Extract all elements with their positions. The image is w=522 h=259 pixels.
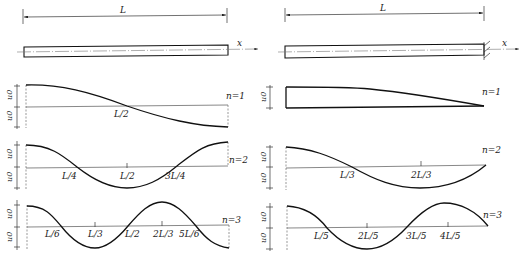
mode-label: n=1 (226, 91, 245, 101)
left-x-axis-label: x (237, 38, 242, 48)
right-mode-1: u0 n=1 (259, 85, 501, 110)
tick-label: L/4 (61, 171, 77, 181)
mode-label: n=3 (483, 210, 502, 220)
tick-label: L/3 (339, 170, 355, 180)
amplitude-label: u0 (5, 149, 14, 159)
mode-label: n=2 (229, 155, 248, 165)
amplitude-label: u0 (5, 172, 14, 182)
tick-label: L/2 (113, 109, 129, 119)
left-mode-2: u0 u0 L/4 L/2 3L/4 n=2 (5, 141, 248, 190)
tick-label: 3L/4 (165, 171, 186, 181)
amplitude-label: u0 (259, 173, 268, 183)
left-panel: L x u0 u0 L/2 n=1 u (5, 5, 258, 250)
left-mode-1: u0 u0 L/2 n=1 (5, 84, 245, 129)
amplitude-label: u0 (5, 232, 14, 242)
mode-label: n=3 (222, 215, 241, 225)
tick-label: 3L/5 (406, 231, 427, 241)
tick-label: L/2 (119, 171, 135, 181)
amplitude-label: u0 (259, 233, 268, 243)
fixed-support-icon (484, 41, 490, 60)
right-panel: L x u0 n=1 (259, 3, 519, 251)
amplitude-label: u0 (5, 209, 14, 219)
amplitude-label: u0 (5, 111, 14, 121)
right-mode-2: u0 u0 L/3 2L/3 n=2 (259, 145, 501, 190)
right-length-label: L (379, 3, 386, 13)
amplitude-label: u0 (259, 152, 268, 162)
tick-label: 4L/5 (439, 231, 461, 241)
left-length-dimension: L (23, 5, 227, 24)
tick-label: L/6 (44, 229, 60, 239)
right-beam: x (278, 38, 519, 60)
right-x-axis-label: x (502, 38, 507, 48)
tick-label: L/3 (87, 229, 103, 239)
mode-label: n=1 (482, 87, 501, 97)
tick-label: L/2 (124, 229, 140, 239)
right-length-dimension: L (285, 3, 484, 22)
left-mode-3: u0 u0 L/6 L/3 L/2 2L/3 5L/6 n=3 (5, 200, 241, 250)
left-length-label: L (119, 5, 126, 15)
left-beam: x (17, 38, 258, 57)
amplitude-label: u0 (259, 92, 268, 102)
tick-label: 5L/6 (179, 229, 200, 239)
amplitude-label: u0 (5, 90, 14, 100)
tick-label: 2L/3 (410, 170, 432, 180)
mode-label: n=2 (482, 145, 501, 155)
tick-label: 2L/5 (357, 231, 379, 241)
right-mode-3: u0 u0 L/5 2L/5 3L/5 4L/5 n=3 (259, 203, 502, 251)
mode-shapes-diagram: L x u0 u0 L/2 n=1 u (0, 0, 522, 259)
amplitude-label: u0 (259, 212, 268, 222)
tick-label: 2L/3 (152, 229, 174, 239)
tick-label: L/5 (313, 231, 329, 241)
